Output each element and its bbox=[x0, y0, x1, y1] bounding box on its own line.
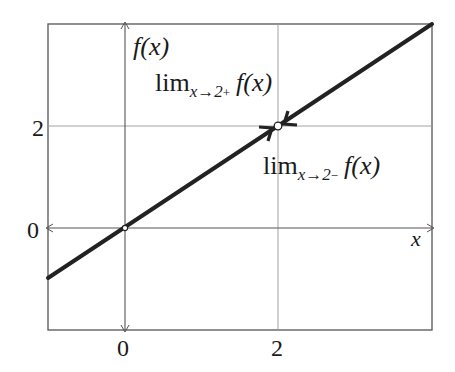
limit-left-annotation: limx→2−f(x) bbox=[263, 151, 380, 184]
xtick-2: 2 bbox=[271, 335, 283, 361]
limit-chart: 2 0 0 2 f(x) x limx→2+f(x) limx→2−f(x) bbox=[0, 0, 455, 372]
ytick-2: 2 bbox=[32, 115, 44, 141]
hole-marker bbox=[274, 122, 282, 130]
x-axis-label: x bbox=[410, 226, 421, 251]
origin-marker bbox=[122, 225, 127, 230]
xtick-0: 0 bbox=[117, 335, 129, 361]
ytick-0: 0 bbox=[27, 217, 39, 243]
limit-right-annotation: limx→2+f(x) bbox=[155, 68, 272, 101]
y-axis-label: f(x) bbox=[133, 32, 169, 61]
y-axis bbox=[121, 22, 129, 332]
x-axis bbox=[46, 224, 434, 232]
